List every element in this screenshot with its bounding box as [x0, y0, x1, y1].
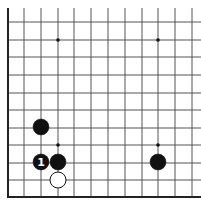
move-number-label: 1 [37, 156, 45, 169]
board-grid [7, 8, 201, 198]
black-stone-disc [150, 154, 166, 170]
black-stone [150, 154, 166, 170]
stones: 1 [33, 119, 166, 188]
star-point [156, 38, 160, 42]
star-point [56, 38, 60, 42]
black-stone-disc [33, 119, 49, 135]
black-stone [33, 119, 49, 135]
star-point [156, 143, 160, 147]
black-stone: 1 [33, 154, 49, 170]
black-stone-disc [50, 154, 66, 170]
go-board: 1 [0, 0, 201, 205]
white-stone-disc [50, 172, 66, 188]
black-stone [50, 154, 66, 170]
star-point [56, 143, 60, 147]
white-stone [50, 172, 66, 188]
